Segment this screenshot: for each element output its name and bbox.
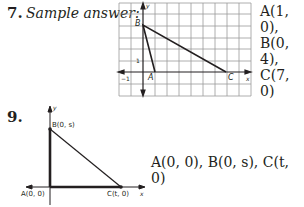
- x-axis-label: x: [140, 190, 144, 197]
- point-b-label: B(0, s): [52, 121, 75, 129]
- y-axis-label: y: [53, 104, 57, 111]
- point-a-label: A(0, 0): [21, 190, 45, 198]
- triangle-abc: [50, 129, 121, 187]
- point-c-label: C(t, 0): [107, 190, 129, 198]
- problem-9-coords: A(0, 0), B(0, s), C(t, 0): [151, 154, 304, 186]
